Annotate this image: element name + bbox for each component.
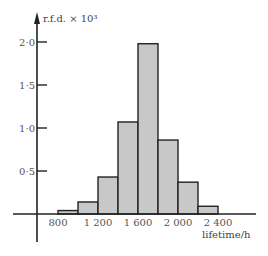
y-tick-label: 1·5 [19,80,35,91]
histogram-bar [198,206,218,214]
y-tick-label: 2·0 [19,37,35,48]
y-ticks: 0·51·01·52·0 [19,37,47,177]
x-tick-label: 2 000 [164,217,193,228]
y-axis-arrow-icon [34,12,40,24]
histogram-bar [98,177,118,214]
y-tick-label: 1·0 [19,123,35,134]
histogram-bar [138,44,158,214]
histogram-bars [58,44,218,214]
histogram-bar [158,140,178,214]
x-tick-label: 2 400 [204,217,233,228]
y-axis-label: r.f.d. × 10³ [43,13,97,24]
x-axis-label: lifetime/h [202,229,251,240]
x-ticks: 8001 2001 6002 0002 400 [48,217,232,228]
histogram-chart: 0·51·01·52·0 8001 2001 6002 0002 400 r.f… [0,0,268,256]
histogram-bar [178,182,198,214]
histogram-bar [118,122,138,214]
x-tick-label: 800 [48,217,67,228]
x-tick-label: 1 600 [124,217,153,228]
x-tick-label: 1 200 [84,217,113,228]
y-tick-label: 0·5 [19,166,35,177]
histogram-bar [78,202,98,214]
